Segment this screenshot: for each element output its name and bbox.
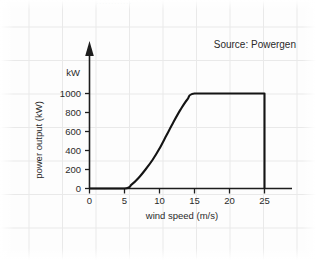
y-axis-unit-label: kW [66,67,80,78]
y-tick-label-600: 600 [65,126,81,137]
x-tick-label-5: 5 [122,195,127,206]
y-tick-label-0: 0 [76,183,81,194]
y-tick-label-1000: 1000 [60,88,81,99]
x-axis-title: wind speed (m/s) [145,210,218,221]
x-tick-label-0: 0 [87,195,92,206]
x-tick-label-25: 25 [259,195,270,206]
source-annotation: Source: Powergen [214,39,296,50]
x-axis-ticks: 0 5 10 15 20 25 [87,189,270,207]
y-axis-arrow-icon [85,41,94,56]
figure-root: ............ Source: Powergen kW 1000 80… [0,0,316,260]
x-tick-label-10: 10 [154,195,165,206]
x-tick-label-15: 15 [189,195,200,206]
x-tick-label-20: 20 [224,195,235,206]
y-tick-label-400: 400 [65,145,81,156]
power-curve-chart: Source: Powergen kW 1000 800 600 400 200… [0,0,316,260]
y-tick-label-800: 800 [65,107,81,118]
y-axis-title: power output (kW) [33,101,44,179]
y-tick-label-200: 200 [65,164,81,175]
power-curve-line [90,94,265,189]
y-axis-ticks: 1000 800 600 400 200 0 [60,88,90,194]
